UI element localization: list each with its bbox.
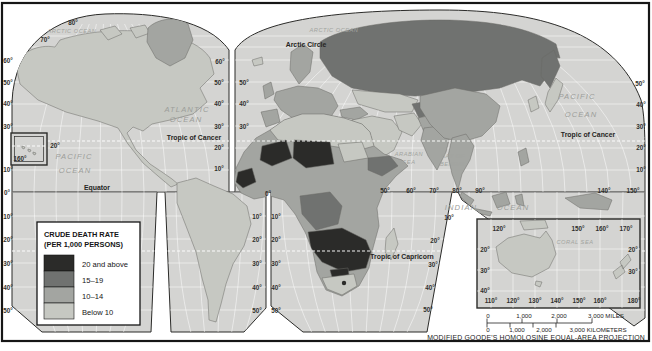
map-label: 20°	[628, 246, 638, 253]
map-label: Tropic of Cancer	[167, 134, 222, 142]
map-label: 20°	[636, 144, 646, 151]
legend: CRUDE DEATH RATE(PER 1,000 PERSONS)20 an…	[37, 222, 140, 325]
map-label: INDIAN	[445, 203, 477, 212]
map-label: Equator	[84, 184, 110, 192]
map-label: 30°	[480, 267, 490, 274]
map-label: OCEAN	[565, 110, 598, 119]
map-label: 50°	[3, 307, 13, 314]
map-label: 10°	[3, 166, 13, 173]
map-label: 90°	[475, 187, 485, 194]
map-label: 120°	[506, 297, 520, 304]
legend-swatch-below-10	[44, 303, 74, 319]
map-label: BENGAL	[440, 161, 466, 167]
legend-swatch-10-14	[44, 287, 74, 303]
map-label: 50°	[252, 307, 262, 314]
map-label: 20°	[252, 236, 262, 243]
map-label: 160°	[595, 225, 609, 232]
map-label: 3,000 KILOMETERS	[569, 326, 626, 333]
map-label: 1,000	[509, 326, 525, 333]
australia-inset	[477, 219, 640, 308]
legend-item-label: Below 10	[82, 308, 113, 317]
map-label: ARCTIC OCEAN	[47, 28, 97, 34]
map-label: 40°	[3, 284, 13, 291]
lesotho	[342, 281, 346, 285]
legend-item-label: 20 and above	[82, 260, 128, 269]
map-label: 40°	[3, 100, 13, 107]
map-label: 150°	[572, 297, 586, 304]
map-label: 140°	[550, 297, 564, 304]
legend-item-label: 10–14	[82, 292, 103, 301]
legend-title: CRUDE DEATH RATE	[44, 230, 119, 239]
map-label: 40°	[239, 100, 249, 107]
map-label: 20°	[214, 144, 224, 151]
map-label: 40°	[252, 284, 262, 291]
map-label: 130°	[528, 297, 542, 304]
map-label: 150°	[626, 187, 640, 194]
map-label: 40°	[425, 284, 435, 291]
map-label: 150°	[571, 225, 585, 232]
world-map: CRUDE DEATH RATE(PER 1,000 PERSONS)20 an…	[0, 0, 652, 351]
map-label: SEA	[403, 159, 416, 165]
new-guinea-inset	[520, 220, 548, 230]
map-label: 30°	[3, 260, 13, 267]
map-label: 60°	[215, 58, 225, 65]
map-label: 3,000 MILES	[588, 312, 624, 319]
map-label: 70°	[429, 187, 439, 194]
map-label: 2,000	[551, 312, 567, 319]
map-label: 10°	[214, 165, 224, 172]
map-label: 80°	[452, 187, 462, 194]
map-label: 10°	[3, 213, 13, 220]
map-label: 0°	[4, 189, 11, 196]
map-label: 50°	[3, 79, 13, 86]
map-label: 50°	[271, 307, 281, 314]
map-label: Tropic of Cancer	[561, 131, 616, 139]
map-label: 140°	[597, 187, 611, 194]
map-label: 30°	[3, 123, 13, 130]
map-label: OCEAN	[497, 203, 530, 212]
map-label: 40°	[271, 284, 281, 291]
map-label: BAY OF	[441, 153, 464, 159]
map-label: CORAL SEA	[557, 239, 594, 245]
map-label: 20°	[430, 237, 440, 244]
map-label: 0	[486, 312, 490, 319]
map-label: 160°	[13, 155, 27, 162]
map-label: 20°	[271, 236, 281, 243]
map-label: 50°	[423, 306, 433, 313]
map-label: OCEAN	[59, 166, 92, 175]
map-label: OCEAN	[170, 115, 203, 124]
map-label: 180°	[627, 297, 641, 304]
map-label: 30°	[636, 123, 646, 130]
map-label: 30°	[214, 123, 224, 130]
map-label: ARABIAN	[394, 151, 424, 157]
map-label: 1,000	[516, 312, 532, 319]
map-label: 30°	[252, 260, 262, 267]
map-label: 10°	[636, 166, 646, 173]
map-label: 30°	[239, 123, 249, 130]
legend-swatch-20-and-above	[44, 255, 74, 271]
map-label: 2,000	[536, 326, 552, 333]
map-label: 50°	[214, 79, 224, 86]
map-label: 160°	[593, 297, 607, 304]
map-label: 40°	[214, 100, 224, 107]
map-label: 40°	[636, 101, 646, 108]
map-label: 30°	[271, 260, 281, 267]
map-figure: CRUDE DEATH RATE(PER 1,000 PERSONS)20 an…	[0, 0, 652, 351]
map-label: ARCTIC OCEAN	[309, 27, 359, 33]
map-label: 0°	[265, 190, 272, 197]
map-label: 60°	[3, 57, 13, 64]
map-label: 20°	[480, 246, 490, 253]
map-label: 10°	[252, 213, 262, 220]
legend-item-label: 15–19	[82, 276, 103, 285]
map-label: 0	[486, 326, 490, 333]
map-label: 40°	[480, 287, 490, 294]
legend-swatch-15-19	[44, 271, 74, 287]
map-label: 10°	[271, 213, 281, 220]
map-label: PACIFIC	[55, 152, 92, 161]
map-label: 30°	[428, 261, 438, 268]
legend-title: (PER 1,000 PERSONS)	[44, 240, 123, 249]
map-label: 50°	[239, 79, 249, 86]
map-label: Tropic of Capricorn	[370, 253, 434, 261]
map-label: Arctic Circle	[286, 41, 327, 48]
map-label: PACIFIC	[558, 92, 595, 101]
map-label: 110°	[485, 297, 498, 304]
